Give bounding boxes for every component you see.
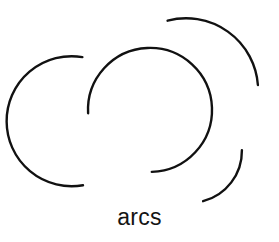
left-large-arc (7, 56, 83, 186)
figure-container: arcs (0, 0, 279, 242)
figure-caption: arcs (0, 203, 279, 231)
lower-right-arc (203, 150, 242, 201)
upper-right-arc (168, 18, 258, 85)
middle-circle-arc (88, 48, 212, 172)
